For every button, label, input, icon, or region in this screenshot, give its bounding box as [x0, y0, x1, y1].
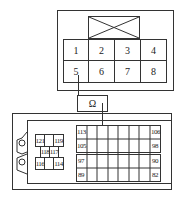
pin-grid: 113 106 105 98 97 90 89 82	[76, 125, 161, 182]
pin-5: 5	[63, 60, 89, 83]
pin-106: 106	[151, 128, 160, 136]
wire-pin5-to-meter	[78, 75, 79, 95]
pin-7: 7	[114, 60, 141, 83]
pin-4: 4	[140, 39, 167, 61]
pin-113: 113	[77, 128, 86, 136]
pin-3: 3	[114, 39, 141, 61]
ohm-icon: Ω	[89, 98, 96, 109]
pin-1: 1	[63, 39, 89, 61]
pin-90: 90	[152, 157, 158, 165]
ohmmeter: Ω	[77, 95, 108, 112]
pin-2: 2	[88, 39, 115, 61]
pin-105: 105	[77, 142, 86, 150]
pin-8: 8	[140, 60, 167, 83]
pin-6: 6	[88, 60, 115, 83]
connector-latch	[88, 16, 140, 39]
pin-114: 114	[53, 157, 64, 170]
pin-89: 89	[78, 171, 84, 179]
pin-98: 98	[152, 142, 158, 150]
pin-82: 82	[152, 171, 158, 179]
pin-97: 97	[78, 157, 84, 165]
cross-icon	[89, 17, 139, 38]
clip-icons	[16, 130, 28, 175]
